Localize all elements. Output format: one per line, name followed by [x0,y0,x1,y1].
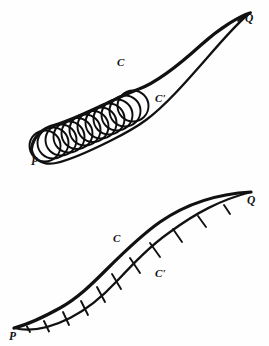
rung [173,229,182,242]
label-p-top: P [31,155,39,167]
upper-boundary-curve-c [14,192,251,328]
label-c-bottom: C [113,232,121,244]
family-of-circles-panel: P Q C C' [0,0,269,180]
label-cprime-bottom: C' [155,267,165,279]
label-q-top: Q [245,12,253,24]
rung [27,327,30,333]
rung [224,205,230,214]
label-q-bottom: Q [247,194,255,206]
label-p-bottom: P [9,330,17,342]
label-c-top: C [117,56,125,68]
rung [198,216,206,227]
figure-root: P Q C C' P Q C C' [0,0,269,346]
ribbon-strip-panel: P Q C C' [0,180,269,346]
rung [112,274,121,289]
upper-envelope-curve-c [32,13,251,149]
label-cprime-top: C' [155,92,165,104]
